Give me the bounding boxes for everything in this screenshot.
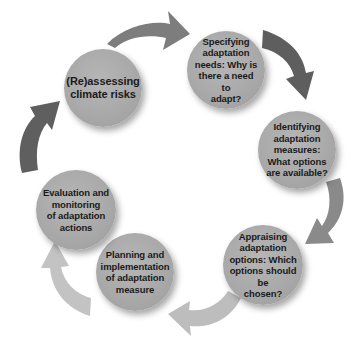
arrow-reassessing-to-specifying (107, 11, 190, 50)
step-specifying-adaptation-needs: Specifying adaptation needs: Why is ther… (187, 31, 265, 109)
step-appraising-adaptation-options: Appraising adaptation options: Which opt… (223, 225, 303, 305)
step-label: Evaluation and monitoring of adaptation … (37, 187, 115, 233)
step-reassessing-climate-risks: (Re)assessing climate risks (64, 49, 142, 127)
step-label: Appraising adaptation options: Which opt… (223, 231, 303, 300)
adaptation-cycle-diagram: (Re)assessing climate risks Specifying a… (0, 0, 363, 350)
arrow-evaluation-to-reassessing (20, 101, 60, 173)
arrow-planning-to-evaluation (41, 241, 91, 316)
step-evaluation-monitoring: Evaluation and monitoring of adaptation … (36, 170, 116, 250)
step-planning-implementation: Planning and implementation of adaptatio… (96, 233, 174, 311)
step-label: (Re)assessing climate risks (60, 75, 145, 101)
step-label: Planning and implementation of adaptatio… (95, 249, 176, 295)
step-label: Specifying adaptation needs: Why is ther… (187, 36, 265, 105)
arrow-specifying-to-identifying (262, 30, 314, 100)
arrow-identifying-to-appraising (305, 178, 344, 244)
step-label: Identifying adaptation measures: What op… (260, 121, 333, 179)
step-identifying-adaptation-measures: Identifying adaptation measures: What op… (258, 111, 336, 189)
